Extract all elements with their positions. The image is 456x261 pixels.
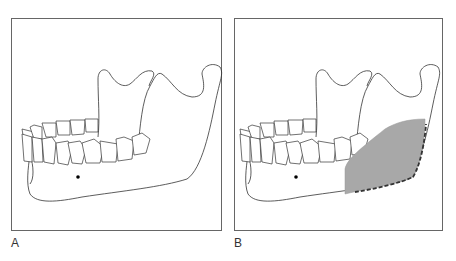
panel-a: [11, 18, 222, 231]
panel-label-b: B: [234, 236, 242, 250]
panel-b: [234, 18, 443, 231]
mandible-illustration-b: [235, 19, 444, 232]
panel-label-a: A: [11, 236, 19, 250]
shaded-region: [345, 119, 425, 194]
mandible-illustration-a: [12, 19, 223, 232]
